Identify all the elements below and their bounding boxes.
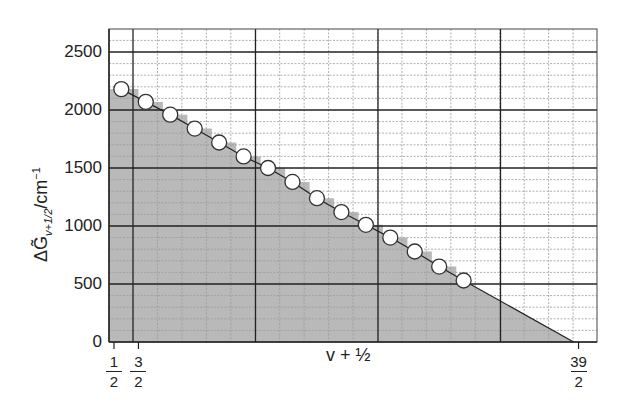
data-point [285,174,300,189]
y-tick-label: 2500 [42,42,102,62]
data-point [383,230,398,245]
y-axis-label: ΔG̃v+1/2/cm−1 [30,167,54,262]
data-point [163,107,178,122]
data-point [432,259,447,274]
y-axis-subscript: v+1/2 [42,209,54,236]
data-point [358,217,373,232]
x-axis-label: v + ½ [326,345,371,366]
data-point [187,121,202,136]
y-axis-unit-exp: −1 [30,167,42,180]
x-tick-label: 12 [102,354,126,389]
data-point [114,82,129,97]
data-point [261,161,276,176]
x-tick-label: 32 [126,354,150,389]
data-point [138,94,153,109]
data-point [456,273,471,288]
data-point [236,149,251,164]
y-tick-label: 2000 [42,100,102,120]
data-point [407,244,422,259]
y-tick-label: 500 [42,274,102,294]
y-axis-symbol: ΔG̃ [31,236,51,262]
y-axis-unit: /cm [31,180,51,209]
x-tick-label: 392 [567,354,591,389]
data-point [309,191,324,206]
y-tick-label: 0 [42,332,102,352]
data-point [334,205,349,220]
data-point [212,135,227,150]
